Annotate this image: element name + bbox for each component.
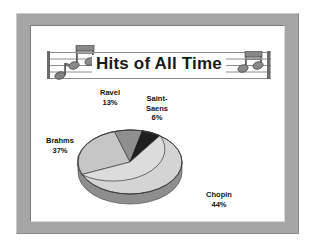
pie-label-brahms-name: Brahms xyxy=(46,136,74,145)
slide-root: Hits of All Time xyxy=(0,0,315,247)
pie-label-chopin-name: Chopin xyxy=(206,190,232,199)
pie-chart: Ravel 13% Saint- Saens 6% Brahms 37% Cho… xyxy=(45,86,273,218)
pie-label-ravel: Ravel 13% xyxy=(89,88,131,107)
pie-label-saint-saens-name-line1: Saint- xyxy=(147,94,168,103)
pie-label-brahms-pct: 37% xyxy=(36,146,84,156)
pie-label-saint-saens-pct: 6% xyxy=(137,113,177,123)
page-title: Hits of All Time xyxy=(92,55,226,73)
pie-label-saint-saens-name-line2: Saens xyxy=(137,104,177,114)
pie-label-ravel-pct: 13% xyxy=(89,98,131,108)
pie-label-ravel-name: Ravel xyxy=(100,88,120,97)
pie-label-chopin-pct: 44% xyxy=(195,200,243,210)
slide-frame-border: Hits of All Time xyxy=(16,13,299,234)
pie-label-brahms: Brahms 37% xyxy=(36,136,84,155)
pie-label-saint-saens: Saint- Saens 6% xyxy=(137,94,177,123)
slide-canvas: Hits of All Time xyxy=(30,25,285,222)
title-banner: Hits of All Time xyxy=(45,42,273,85)
pie-label-chopin: Chopin 44% xyxy=(195,190,243,209)
